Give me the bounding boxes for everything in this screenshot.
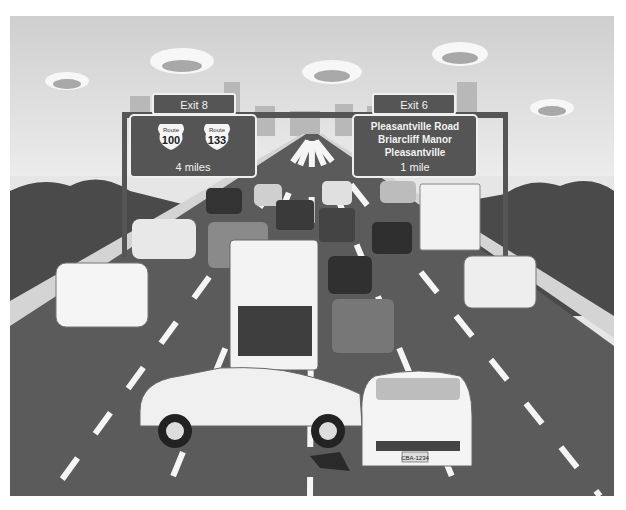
box-truck [420,184,480,250]
car [132,219,196,259]
car [56,263,148,327]
svg-text:100: 100 [162,134,180,146]
suv [322,181,352,205]
highway-illustration: Exit 8 Route 100 Route 133 4 miles Exit … [10,16,614,496]
svg-text:Briarcliff Manor: Briarcliff Manor [378,134,452,145]
car [332,299,394,353]
car [464,256,536,308]
car [319,208,355,242]
svg-text:Pleasantville: Pleasantville [385,147,446,158]
svg-text:CBA-1234: CBA-1234 [401,455,429,461]
car [380,181,416,203]
car [372,222,412,254]
car [328,256,372,294]
svg-text:Route: Route [209,127,226,133]
svg-text:1 mile: 1 mile [400,161,429,173]
svg-text:Pleasantville Road: Pleasantville Road [371,121,459,132]
pickup-truck [276,200,314,230]
highway-scene: Exit 8 Route 100 Route 133 4 miles Exit … [10,16,614,496]
car [206,188,242,214]
svg-text:Route: Route [163,127,180,133]
svg-text:4 miles: 4 miles [176,161,211,173]
svg-text:Exit 8: Exit 8 [180,99,208,111]
svg-text:133: 133 [208,134,226,146]
svg-text:Exit 6: Exit 6 [400,99,428,111]
